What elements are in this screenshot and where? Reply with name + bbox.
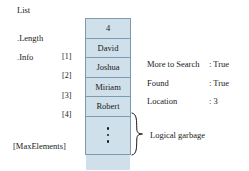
index-label-1: [1] bbox=[62, 53, 71, 61]
record-name-label: List bbox=[17, 6, 30, 15]
index-label-4: [4] bbox=[62, 111, 71, 119]
status-found: Found : True bbox=[147, 79, 247, 89]
status-found-key: Found bbox=[147, 79, 169, 88]
length-field-label: .Length bbox=[17, 34, 43, 43]
element-3: Miriam bbox=[86, 78, 130, 98]
element-4: Robert bbox=[86, 97, 130, 117]
status-location: Location : 3 bbox=[147, 97, 247, 107]
max-elements-label: [MaxElements] bbox=[13, 142, 66, 151]
vertical-ellipsis-icon bbox=[107, 117, 110, 154]
element-2: Joshua bbox=[86, 58, 130, 78]
status-location-key: Location bbox=[147, 97, 177, 106]
element-2-value: Joshua bbox=[96, 63, 119, 72]
element-4-value: Robert bbox=[96, 102, 119, 111]
index-label-3: [3] bbox=[62, 92, 71, 100]
curly-brace-icon bbox=[131, 112, 144, 156]
array-box: 4 David Joshua Miriam Robert bbox=[85, 18, 131, 155]
status-found-value: : True bbox=[209, 79, 229, 88]
logical-garbage-label: Logical garbage bbox=[150, 131, 205, 140]
ellipsis-cell bbox=[86, 117, 130, 155]
element-1: David bbox=[86, 39, 130, 59]
last-cell bbox=[86, 155, 130, 171]
status-more-to-search-key: More to Search bbox=[147, 60, 199, 69]
status-location-value: : 3 bbox=[209, 97, 218, 106]
index-label-2: [2] bbox=[62, 72, 71, 80]
element-3-value: Miriam bbox=[95, 83, 121, 92]
info-field-label: .Info bbox=[17, 53, 33, 62]
list-search-diagram: List .Length .Info [MaxElements] [1] [2]… bbox=[0, 0, 249, 170]
element-1-value: David bbox=[98, 44, 119, 53]
status-more-to-search: More to Search : True bbox=[147, 60, 247, 70]
status-more-to-search-value: : True bbox=[209, 60, 229, 69]
length-cell: 4 bbox=[86, 19, 130, 39]
length-cell-value: 4 bbox=[106, 24, 110, 33]
